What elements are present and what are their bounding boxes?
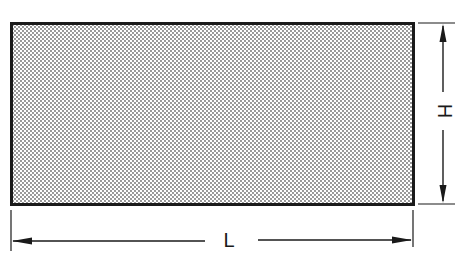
arrowhead-up-icon <box>440 24 447 42</box>
height-dimension: H <box>418 23 456 204</box>
dimension-diagram: H L <box>0 0 456 261</box>
height-label: H <box>434 104 456 118</box>
length-dimension: L <box>11 210 413 251</box>
arrowhead-left-icon <box>12 238 32 245</box>
arrowhead-right-icon <box>392 237 412 244</box>
rectangle-shape <box>12 24 414 205</box>
length-label: L <box>223 229 234 251</box>
arrowhead-down-icon <box>440 185 447 203</box>
